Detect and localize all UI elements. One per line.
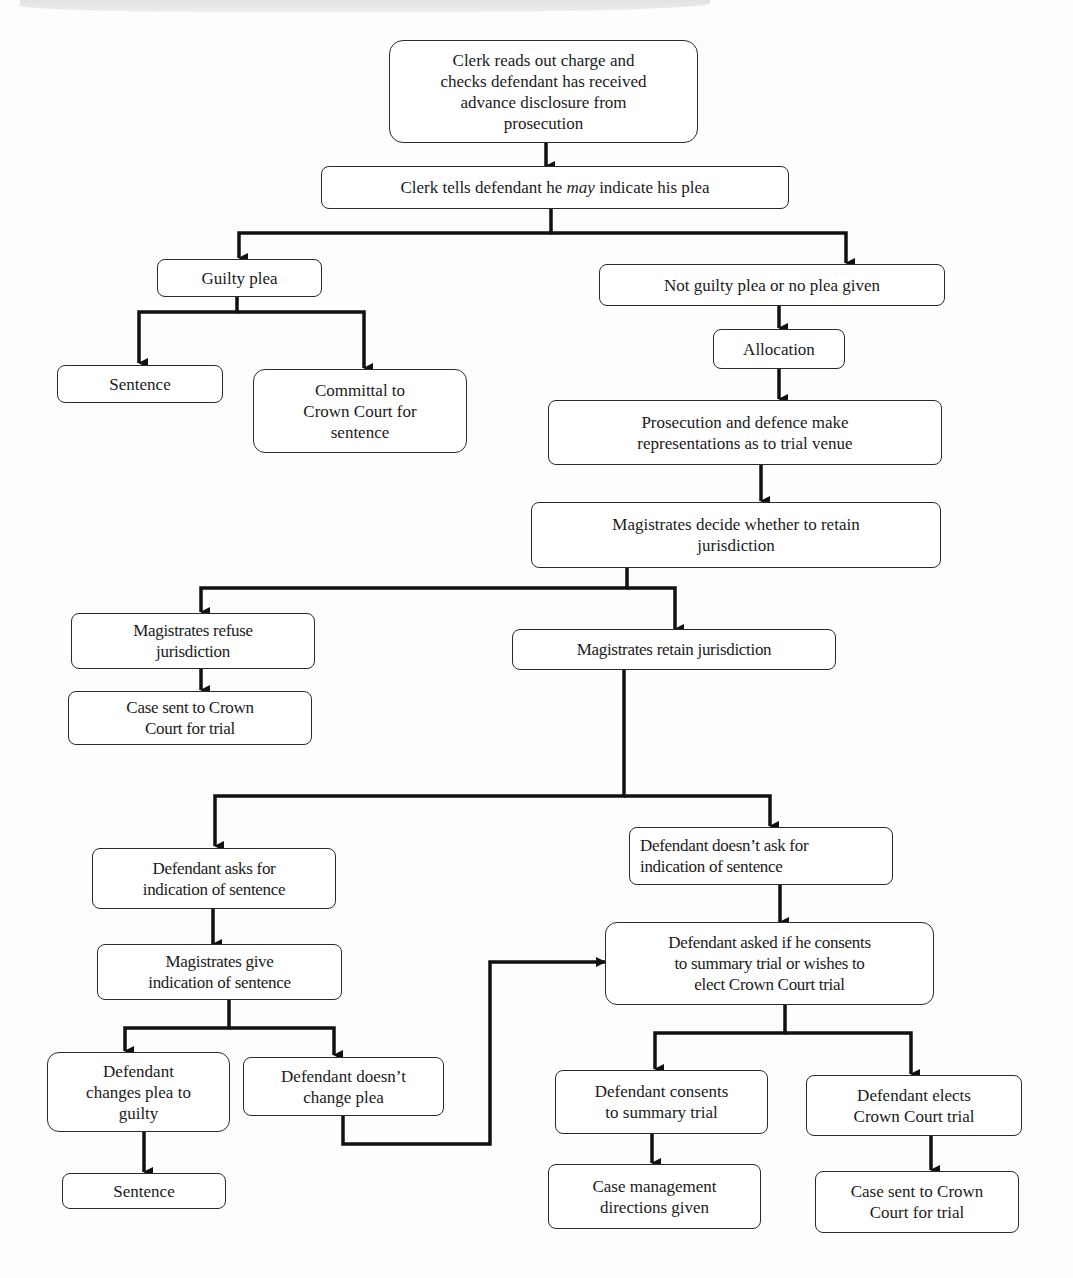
node-label: Defendant doesn’t ask for indication of … (640, 835, 808, 877)
node-allocation: Allocation (713, 329, 845, 369)
node-changes-plea-guilty: Defendant changes plea to guilty (47, 1052, 230, 1132)
node-sentence-2: Sentence (62, 1173, 226, 1209)
node-sentence-1: Sentence (57, 365, 223, 403)
node-label: Defendant asks for indication of sentenc… (143, 858, 286, 900)
node-label: Not guilty plea or no plea given (664, 275, 880, 296)
node-label: Committal to Crown Court for sentence (303, 380, 416, 443)
node-label: Defendant elects Crown Court trial (854, 1085, 975, 1127)
node-label: Sentence (113, 1181, 174, 1202)
node-case-sent-crown-1: Case sent to Crown Court for trial (68, 691, 312, 745)
node-doesnt-ask-indication: Defendant doesn’t ask for indication of … (629, 827, 893, 885)
node-label: Magistrates decide whether to retain jur… (612, 514, 859, 556)
node-decide-jurisdiction: Magistrates decide whether to retain jur… (531, 502, 941, 568)
node-label: Magistrates refuse jurisdiction (133, 620, 253, 662)
node-refuse-jurisdiction: Magistrates refuse jurisdiction (71, 613, 315, 669)
node-clerk-tells-plea: Clerk tells defendant he may indicate hi… (321, 166, 789, 209)
node-label: Case sent to Crown Court for trial (851, 1181, 984, 1223)
node-label: Magistrates retain jurisdiction (577, 639, 772, 660)
node-label: Defendant doesn’t change plea (281, 1066, 406, 1108)
node-label: Prosecution and defence make representat… (637, 412, 852, 454)
node-label: Sentence (109, 374, 170, 395)
node-label: Case sent to Crown Court for trial (126, 697, 253, 739)
node-label: Case management directions given (592, 1176, 716, 1218)
node-case-management: Case management directions given (548, 1164, 761, 1229)
node-retain-jurisdiction: Magistrates retain jurisdiction (512, 629, 836, 670)
node-case-sent-crown-2: Case sent to Crown Court for trial (815, 1171, 1019, 1233)
node-label: Defendant changes plea to guilty (86, 1061, 191, 1124)
node-representations: Prosecution and defence make representat… (548, 400, 942, 465)
node-doesnt-change-plea: Defendant doesn’t change plea (243, 1057, 444, 1116)
node-label: Allocation (743, 339, 815, 360)
node-give-indication: Magistrates give indication of sentence (97, 944, 342, 1000)
node-clerk-reads-charge: Clerk reads out charge and checks defend… (389, 40, 698, 143)
node-elects-crown-court: Defendant elects Crown Court trial (806, 1075, 1022, 1136)
node-committal-crown-court: Committal to Crown Court for sentence (253, 369, 467, 453)
node-guilty-plea: Guilty plea (157, 259, 322, 297)
node-consents-summary-trial: Defendant consents to summary trial (555, 1070, 768, 1134)
node-label: Clerk reads out charge and checks defend… (440, 50, 646, 134)
node-asks-indication: Defendant asks for indication of sentenc… (92, 848, 336, 909)
node-asked-consent: Defendant asked if he consents to summar… (605, 922, 934, 1005)
node-label: Defendant asked if he consents to summar… (668, 932, 870, 995)
node-not-guilty-plea: Not guilty plea or no plea given (599, 264, 945, 306)
node-label: Clerk tells defendant he may indicate hi… (400, 177, 709, 198)
node-label: Magistrates give indication of sentence (148, 951, 291, 993)
node-label: Defendant consents to summary trial (595, 1081, 729, 1123)
node-label: Guilty plea (201, 268, 277, 289)
